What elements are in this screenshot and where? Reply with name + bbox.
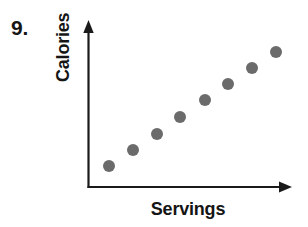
data-point [222, 78, 234, 90]
data-point [151, 128, 163, 140]
y-axis-arrowhead-icon [83, 20, 93, 33]
data-point [199, 94, 211, 106]
scatter-plot-figure: 9. Calories Servings [0, 0, 308, 227]
data-point [270, 46, 282, 58]
x-axis-label: Servings [88, 199, 288, 219]
y-axis-label: Calories [52, 0, 74, 82]
plot-canvas [0, 0, 308, 227]
data-point [103, 160, 115, 172]
data-point [246, 62, 258, 74]
x-axis-arrowhead-icon [279, 182, 292, 193]
data-point [127, 144, 139, 156]
data-point [174, 111, 186, 123]
data-point-group [103, 46, 282, 172]
